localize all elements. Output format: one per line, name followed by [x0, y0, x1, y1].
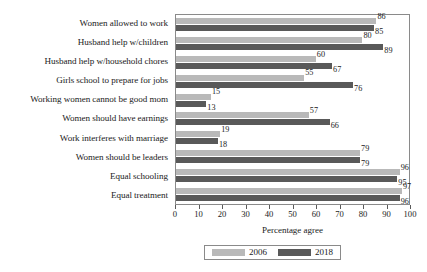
- x-tick-label: 0: [173, 210, 177, 219]
- bar-2006: [176, 75, 304, 81]
- bar-group: 5576: [176, 72, 409, 91]
- category-label: Girls school to prepare for jobs: [0, 71, 172, 90]
- bar-group: 6067: [176, 53, 409, 72]
- bar-value-label: 55: [305, 69, 313, 77]
- category-label: Equal schooling: [0, 167, 172, 186]
- x-tick-label: 30: [241, 210, 250, 219]
- bar-value-label: 15: [212, 88, 220, 96]
- chart-legend: 20062018: [204, 245, 341, 260]
- bar-2018: [176, 25, 374, 31]
- bar-2018: [176, 157, 360, 163]
- bar-row: 96: [176, 169, 409, 175]
- bar-row: 89: [176, 44, 409, 50]
- bar-row: 79: [176, 150, 409, 156]
- bar-2006: [176, 37, 362, 43]
- bar-row: 66: [176, 119, 409, 125]
- bar-group: 8685: [176, 15, 409, 34]
- legend-swatch-2018: [278, 249, 311, 256]
- bar-group: 8089: [176, 34, 409, 53]
- bar-value-label: 80: [363, 32, 371, 40]
- bar-row: 15: [176, 94, 409, 100]
- bar-row: 55: [176, 75, 409, 81]
- bar-group: 1918: [176, 128, 409, 147]
- category-label: Women allowed to work: [0, 14, 172, 33]
- x-tick-label: 10: [194, 210, 203, 219]
- bar-2006: [176, 94, 211, 100]
- category-axis: Women allowed to workHusband help w/chil…: [0, 14, 172, 205]
- x-tick-label: 40: [265, 210, 274, 219]
- bar-row: 67: [176, 63, 409, 69]
- bar-row: 79: [176, 157, 409, 163]
- x-tick-label: 20: [218, 210, 227, 219]
- bar-group: 5766: [176, 110, 409, 129]
- bar-2018: [176, 101, 206, 107]
- bar-row: 76: [176, 82, 409, 88]
- grouped-bar-chart: Women allowed to workHusband help w/chil…: [0, 0, 427, 272]
- bar-2018: [176, 138, 218, 144]
- x-axis: 0102030405060708090100: [175, 205, 410, 223]
- bar-2006: [176, 56, 316, 62]
- legend-entry: 2018: [278, 248, 333, 257]
- bar-row: 96: [176, 195, 409, 201]
- bar-row: 85: [176, 25, 409, 31]
- bar-2018: [176, 119, 330, 125]
- bar-group: 7979: [176, 147, 409, 166]
- bar-group: 1513: [176, 91, 409, 110]
- bar-value-label: 97: [403, 183, 411, 191]
- x-tick-label: 60: [312, 210, 321, 219]
- legend-label: 2018: [315, 248, 333, 257]
- bar-2018: [176, 44, 383, 50]
- bar-2018: [176, 176, 397, 182]
- bar-row: 80: [176, 37, 409, 43]
- legend-label: 2006: [249, 248, 267, 257]
- bar-value-label: 86: [377, 13, 385, 21]
- plot-area: 8685808960675576151357661918797996959796: [175, 14, 410, 205]
- category-label: Husband help w/children: [0, 33, 172, 52]
- legend-entry: 2006: [212, 248, 267, 257]
- legend-swatch-2006: [212, 249, 245, 256]
- category-label: Husband help w/household chores: [0, 52, 172, 71]
- bar-2006: [176, 169, 400, 175]
- x-tick-label: 90: [382, 210, 391, 219]
- bar-row: 18: [176, 138, 409, 144]
- bar-2006: [176, 131, 220, 137]
- x-tick-label: 80: [359, 210, 368, 219]
- bar-2018: [176, 195, 400, 201]
- bar-value-label: 79: [361, 145, 369, 153]
- bar-2018: [176, 82, 353, 88]
- category-label: Working women cannot be good mom: [0, 90, 172, 109]
- bar-value-label: 19: [221, 126, 229, 134]
- bar-group: 9695: [176, 166, 409, 185]
- category-label: Women should be leaders: [0, 148, 172, 167]
- x-tick-label: 100: [404, 210, 417, 219]
- bar-row: 57: [176, 112, 409, 118]
- bar-value-label: 57: [310, 107, 318, 115]
- bars-layer: 8685808960675576151357661918797996959796: [176, 15, 409, 204]
- x-tick-label: 70: [335, 210, 344, 219]
- x-tick-label: 50: [288, 210, 297, 219]
- bar-group: 9796: [176, 185, 409, 204]
- category-label: Work interferes with marriage: [0, 129, 172, 148]
- bar-2006: [176, 188, 402, 194]
- bar-row: 19: [176, 131, 409, 137]
- category-label: Equal treatment: [0, 186, 172, 205]
- bar-2006: [176, 18, 376, 24]
- category-label: Women should have earnings: [0, 109, 172, 128]
- bar-row: 13: [176, 101, 409, 107]
- x-axis-title: Percentage agree: [175, 226, 410, 235]
- bar-row: 60: [176, 56, 409, 62]
- bar-value-label: 60: [317, 51, 325, 59]
- bar-value-label: 96: [401, 164, 409, 172]
- bar-2006: [176, 150, 360, 156]
- bar-row: 86: [176, 18, 409, 24]
- bar-row: 97: [176, 188, 409, 194]
- bar-row: 95: [176, 176, 409, 182]
- bar-2006: [176, 112, 309, 118]
